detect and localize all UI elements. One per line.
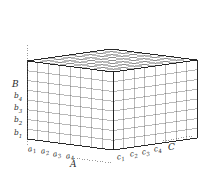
axis-tick-c3: c3 xyxy=(141,147,150,158)
axis-tick-b1: b1 xyxy=(14,129,22,139)
axis-tick-c1: c1 xyxy=(116,152,125,163)
axis-tick-a2: a2 xyxy=(40,146,50,157)
cube-edges xyxy=(27,49,197,150)
figure-root: B b4 b3 b2 b1 a1 a2 a3 a4 A c1 c2 c3 c4 … xyxy=(0,0,213,183)
axis-tick-a3: a3 xyxy=(52,149,62,160)
axis-label-b: B xyxy=(12,80,19,89)
axis-tick-a1: a1 xyxy=(27,144,37,155)
axis-label-c: C xyxy=(168,143,175,152)
axis-tick-b2: b2 xyxy=(14,116,22,126)
axis-label-a: A xyxy=(70,160,77,169)
cube-diagram xyxy=(0,0,213,183)
axis-tick-c2: c2 xyxy=(129,149,138,160)
axis-tick-b4: b4 xyxy=(14,92,22,102)
axis-tick-c4: c4 xyxy=(153,144,162,155)
axis-tick-b3: b3 xyxy=(14,104,22,114)
